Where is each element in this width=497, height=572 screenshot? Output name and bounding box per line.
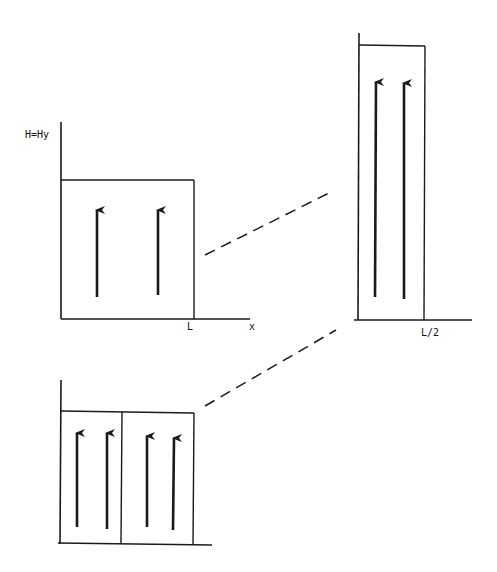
half-width-domain-panel (354, 33, 472, 320)
split-domain-panel (58, 380, 212, 545)
domain-diagram (0, 0, 497, 572)
domain-top-edge (61, 411, 194, 413)
y-axis-label: H=Hy (25, 130, 49, 140)
x-tick-label-L: L (187, 322, 193, 332)
domain-right-edge (424, 46, 425, 320)
lower-dashed-connector (205, 330, 336, 406)
x-tick-label-half-L: L/2 (421, 328, 439, 338)
x-axis-label: x (249, 322, 255, 332)
y-axis (358, 33, 359, 320)
single-domain-panel (61, 122, 250, 319)
y-axis (60, 380, 61, 544)
field-arrow-icon (375, 82, 376, 297)
domain-top-edge (359, 45, 425, 46)
domain-divider (121, 412, 122, 544)
field-arrow-icon (173, 438, 174, 530)
upper-dashed-connector (205, 191, 333, 255)
x-axis (58, 543, 212, 545)
domain-right-edge (193, 413, 194, 545)
